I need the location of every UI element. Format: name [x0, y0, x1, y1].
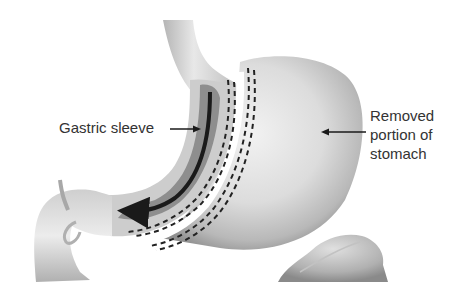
- removed-portion-label-line3: stomach: [370, 144, 434, 163]
- pancreas-fragment: [278, 235, 388, 282]
- removed-portion-label-line2: portion of: [370, 125, 434, 144]
- sleeve-gastrectomy-diagram: Gastric sleeve Removed portion of stomac…: [0, 0, 465, 298]
- gastric-sleeve-label: Gastric sleeve: [59, 119, 154, 137]
- removed-portion-label: Removed portion of stomach: [370, 106, 434, 163]
- duodenum: [34, 190, 112, 282]
- removed-portion-label-line1: Removed: [370, 106, 434, 125]
